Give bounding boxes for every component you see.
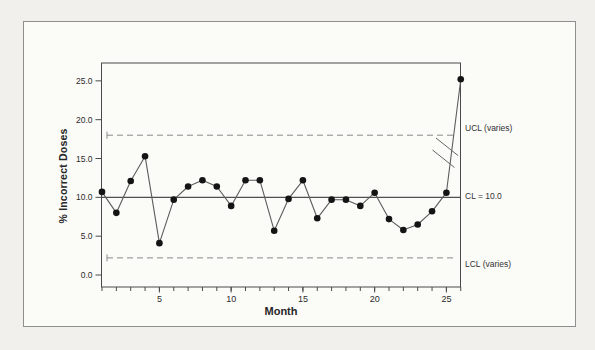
x-tick-label: 5: [157, 294, 162, 304]
y-tick-label: 25.0: [76, 76, 93, 86]
center-line-label: CL = 10.0: [465, 191, 502, 201]
x-tick-label: 20: [370, 294, 380, 304]
y-tick-label: 10.0: [76, 192, 93, 202]
lcl-label: LCL (varies): [465, 259, 511, 269]
data-point: [199, 177, 206, 184]
data-point: [300, 177, 307, 184]
y-tick-label: 0.0: [81, 270, 93, 280]
scanned-figure: 0.05.010.015.020.025.0510152025 % Incorr…: [0, 0, 595, 350]
y-axis-title: % Incorrect Doses: [57, 128, 69, 223]
plot-frame: [102, 63, 461, 287]
x-axis-title: Month: [265, 305, 298, 317]
ucl-label: UCL (varies): [465, 123, 512, 133]
data-point: [414, 221, 421, 228]
series-line: [102, 79, 461, 243]
data-point: [127, 178, 134, 185]
data-point: [156, 240, 163, 247]
data-point: [443, 189, 450, 196]
data-point: [371, 189, 378, 196]
x-tick-label: 10: [226, 294, 236, 304]
data-point: [142, 153, 149, 160]
data-point: [257, 177, 264, 184]
y-tick-label: 15.0: [76, 154, 93, 164]
data-point: [328, 196, 335, 203]
data-point: [314, 215, 321, 222]
data-point: [400, 227, 407, 234]
scale-break-icon: [436, 138, 458, 156]
data-point: [285, 196, 292, 203]
x-tick-label: 15: [298, 294, 308, 304]
data-point: [457, 76, 464, 83]
x-tick-label: 25: [441, 294, 451, 304]
data-point: [357, 203, 364, 210]
data-point: [99, 189, 106, 196]
data-point: [343, 196, 350, 203]
data-point: [242, 177, 249, 184]
control-chart: 0.05.010.015.020.025.0510152025: [0, 0, 595, 350]
data-point: [429, 208, 436, 215]
data-point: [170, 196, 177, 203]
data-point: [271, 227, 278, 234]
data-point: [214, 183, 221, 190]
data-point: [228, 203, 235, 210]
y-tick-label: 5.0: [81, 231, 93, 241]
data-point: [113, 210, 120, 217]
data-point: [386, 216, 393, 223]
y-tick-label: 20.0: [76, 115, 93, 125]
data-point: [185, 183, 192, 190]
